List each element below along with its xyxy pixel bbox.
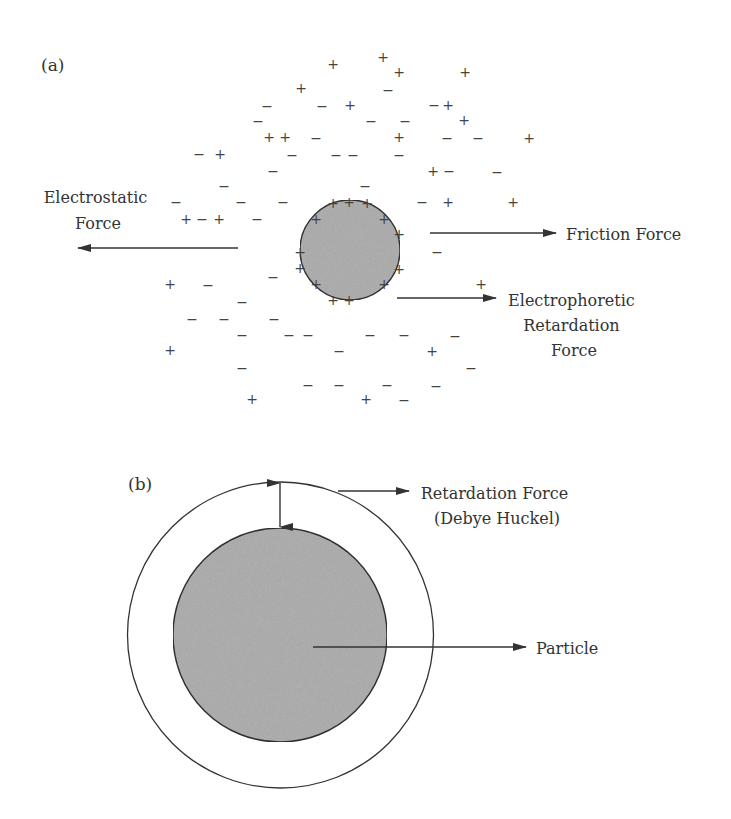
electrostatic-force: Electrostatic Force <box>44 188 238 248</box>
anion-minus-icon: − <box>267 269 279 285</box>
anion-minus-icon: − <box>268 311 280 327</box>
anion-minus-icon: − <box>252 113 264 129</box>
anion-minus-icon: − <box>431 244 443 260</box>
anion-minus-icon: − <box>302 327 314 343</box>
anion-minus-icon: − <box>235 194 247 210</box>
svg-text:Electrostatic Force: Electrostatic Force <box>44 188 153 233</box>
cation-plus-icon: + <box>393 129 405 145</box>
cation-plus-icon: + <box>426 343 438 359</box>
anion-minus-icon: − <box>398 392 410 408</box>
anion-minus-icon: − <box>364 327 376 343</box>
anion-minus-icon: − <box>267 163 279 179</box>
anion-minus-icon: − <box>218 178 230 194</box>
cation-plus-icon: + <box>344 97 356 113</box>
cation-plus-icon: + <box>393 64 405 80</box>
anion-minus-icon: − <box>333 343 345 359</box>
cation-plus-icon: + <box>327 56 339 72</box>
surface-charge-plus-icon: + <box>343 292 355 308</box>
cation-plus-icon: + <box>458 112 470 128</box>
anion-minus-icon: − <box>218 311 230 327</box>
electrostatic-force-label-line2: Force <box>75 214 121 233</box>
anion-minus-icon: − <box>399 113 411 129</box>
cation-plus-icon: + <box>427 163 439 179</box>
anion-minus-icon: − <box>465 360 477 376</box>
anion-minus-icon: − <box>365 113 377 129</box>
anion-minus-icon: − <box>333 377 345 393</box>
surface-charge-plus-icon: + <box>327 195 339 211</box>
anion-minus-icon: − <box>196 211 208 227</box>
cation-plus-icon: + <box>442 194 454 210</box>
cation-plus-icon: + <box>507 194 519 210</box>
anion-minus-icon: − <box>472 130 484 146</box>
svg-text:Retardation Force (Deb: Retardation Force (Debye Huckel) <box>421 484 574 528</box>
friction-force-label: Friction Force <box>566 225 681 244</box>
particle-circle <box>173 528 387 742</box>
panel-a: (a) +++++−−−+−+−−−+++−+−−+−+−−−−−+−−−−−−… <box>41 49 681 408</box>
surface-charge-plus-icon: + <box>361 195 373 211</box>
electrophoretic-label-line3: Force <box>551 341 597 360</box>
cation-plus-icon: + <box>246 391 258 407</box>
anion-minus-icon: − <box>393 147 405 163</box>
anion-minus-icon: − <box>251 211 263 227</box>
anion-minus-icon: − <box>441 130 453 146</box>
electrostatic-force-label-line1: Electrostatic <box>44 188 148 207</box>
anion-minus-icon: − <box>286 147 298 163</box>
anion-minus-icon: − <box>316 98 328 114</box>
particle-label: Particle <box>536 639 598 658</box>
cation-plus-icon: + <box>214 146 226 162</box>
panel-a-label: (a) <box>41 55 64 75</box>
anion-minus-icon: − <box>347 147 359 163</box>
surface-charge-plus-icon: + <box>378 211 390 227</box>
cation-plus-icon: + <box>523 130 535 146</box>
anion-minus-icon: − <box>236 294 248 310</box>
anion-minus-icon: − <box>449 328 461 344</box>
cation-plus-icon: + <box>377 49 389 65</box>
cation-plus-icon: + <box>475 276 487 292</box>
electrophoretic-label-line1: Electrophoretic <box>508 291 635 310</box>
anion-minus-icon: − <box>310 130 322 146</box>
surface-charge-plus-icon: + <box>294 260 306 276</box>
anion-minus-icon: − <box>416 194 428 210</box>
anion-minus-icon: − <box>382 82 394 98</box>
anion-minus-icon: − <box>381 377 393 393</box>
anion-minus-icon: − <box>302 377 314 393</box>
anion-minus-icon: − <box>359 178 371 194</box>
anion-minus-icon: − <box>398 327 410 343</box>
anion-minus-icon: − <box>170 194 182 210</box>
surface-charge-plus-icon: + <box>378 276 390 292</box>
surface-charge-plus-icon: + <box>327 292 339 308</box>
surface-charge-plus-icon: + <box>310 276 322 292</box>
retardation-label-line1: Retardation Force <box>421 484 568 503</box>
cation-plus-icon: + <box>279 129 291 145</box>
anion-minus-icon: − <box>202 277 214 293</box>
surface-charge-plus-icon: + <box>393 261 405 277</box>
anion-minus-icon: − <box>277 194 289 210</box>
panel-b-label: (b) <box>128 474 152 494</box>
cation-plus-icon: + <box>213 211 225 227</box>
anion-minus-icon: − <box>236 327 248 343</box>
panel-b: (b) Retardation Force (Debye Huckel) Par… <box>128 474 599 788</box>
anion-minus-icon: − <box>443 163 455 179</box>
cation-plus-icon: + <box>263 129 275 145</box>
anion-minus-icon: − <box>428 97 440 113</box>
cation-plus-icon: + <box>180 211 192 227</box>
friction-force: Friction Force <box>430 225 681 244</box>
retardation-label-line2: (Debye Huckel) <box>434 509 560 528</box>
anion-minus-icon: − <box>193 146 205 162</box>
cation-plus-icon: + <box>442 97 454 113</box>
surface-charge-plus-icon: + <box>393 226 405 242</box>
electrophoretic-label-line2: Retardation <box>523 316 619 335</box>
anion-minus-icon: − <box>186 311 198 327</box>
anion-minus-icon: − <box>261 98 273 114</box>
cation-plus-icon: + <box>459 64 471 80</box>
cation-plus-icon: + <box>164 276 176 292</box>
surface-charge-plus-icon: + <box>343 194 355 210</box>
anion-minus-icon: − <box>430 378 442 394</box>
cation-plus-icon: + <box>360 391 372 407</box>
electrophoresis-forces-diagram: (a) +++++−−−+−+−−−+++−+−−+−+−−−−−+−−−−−−… <box>0 0 731 819</box>
anion-minus-icon: − <box>330 147 342 163</box>
cation-plus-icon: + <box>295 80 307 96</box>
anion-minus-icon: − <box>236 360 248 376</box>
surface-charge-plus-icon: + <box>310 211 322 227</box>
svg-text:Electrophoretic Retard: Electrophoretic Retardation Force <box>508 291 640 360</box>
